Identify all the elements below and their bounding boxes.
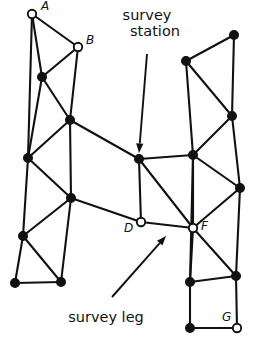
- survey-station-node-open[interactable]: [233, 324, 241, 332]
- survey-station-node-filled[interactable]: [186, 324, 195, 333]
- survey-leg-line: [141, 222, 193, 228]
- survey-stations-group: [11, 10, 245, 333]
- survey-leg-line: [232, 35, 234, 116]
- survey-station-node-filled[interactable]: [19, 232, 28, 241]
- survey-leg-line: [193, 228, 236, 276]
- station-label-f: F: [201, 219, 209, 233]
- survey-leg-line: [193, 155, 240, 188]
- survey-leg-line: [23, 236, 61, 282]
- survey-leg-line: [70, 120, 71, 198]
- survey-leg-line: [42, 47, 78, 77]
- survey-leg-line: [71, 198, 141, 222]
- survey-leg-line: [61, 198, 71, 282]
- callout-label-survey-station: survey: [123, 7, 172, 23]
- station-label-g: G: [222, 310, 231, 324]
- survey-station-node-open[interactable]: [74, 43, 82, 51]
- survey-station-node-filled[interactable]: [135, 155, 144, 164]
- survey-leg-line: [139, 155, 193, 159]
- survey-leg-line: [232, 116, 240, 188]
- survey-leg-line: [193, 116, 232, 155]
- survey-station-node-open[interactable]: [137, 218, 145, 226]
- survey-station-node-filled[interactable]: [66, 116, 75, 125]
- survey-leg-line: [186, 35, 234, 61]
- survey-leg-line: [70, 120, 139, 159]
- survey-leg-line: [139, 159, 193, 228]
- survey-station-node-filled[interactable]: [11, 279, 20, 288]
- survey-network-figure: ABDFG surveystationsurvey leg: [0, 0, 255, 345]
- survey-leg-line: [32, 14, 78, 47]
- callouts-group: surveystationsurvey leg: [68, 7, 180, 325]
- survey-leg-line: [28, 158, 71, 198]
- survey-leg-line: [186, 61, 193, 155]
- survey-leg-line: [190, 155, 193, 282]
- survey-station-node-filled[interactable]: [182, 57, 191, 66]
- survey-leg-line: [15, 282, 61, 283]
- survey-station-node-filled[interactable]: [57, 278, 66, 287]
- callout-label-survey-leg: survey leg: [68, 309, 144, 325]
- survey-station-node-filled[interactable]: [67, 194, 76, 203]
- survey-leg-line: [70, 47, 78, 120]
- survey-network-diagram: ABDFG surveystationsurvey leg: [0, 0, 255, 345]
- survey-station-node-filled[interactable]: [186, 278, 195, 287]
- survey-station-node-filled[interactable]: [228, 112, 237, 121]
- callout-arrow-survey-leg: [112, 243, 160, 297]
- callout-arrowhead-survey-station: [136, 143, 143, 153]
- station-label-a: A: [40, 0, 49, 13]
- survey-station-node-filled[interactable]: [38, 73, 47, 82]
- survey-leg-line: [42, 77, 70, 120]
- survey-leg-line: [23, 198, 71, 236]
- callout-label-survey-station-line2: station: [130, 23, 180, 39]
- survey-leg-line: [236, 188, 240, 276]
- survey-station-node-filled[interactable]: [189, 151, 198, 160]
- station-label-d: D: [124, 221, 133, 235]
- survey-station-node-filled[interactable]: [230, 31, 239, 40]
- survey-station-node-filled[interactable]: [24, 154, 33, 163]
- station-label-b: B: [86, 33, 94, 47]
- survey-station-node-filled[interactable]: [236, 184, 245, 193]
- survey-leg-line: [23, 158, 28, 236]
- survey-station-node-open[interactable]: [28, 10, 36, 18]
- survey-leg-line: [186, 61, 232, 116]
- survey-station-node-open[interactable]: [189, 224, 197, 232]
- survey-leg-line: [15, 236, 23, 283]
- survey-leg-line: [139, 159, 141, 222]
- survey-station-node-filled[interactable]: [232, 272, 241, 281]
- survey-leg-line: [236, 276, 237, 328]
- survey-leg-line: [32, 14, 42, 77]
- callout-arrow-survey-station: [140, 54, 147, 144]
- survey-leg-line: [190, 276, 236, 282]
